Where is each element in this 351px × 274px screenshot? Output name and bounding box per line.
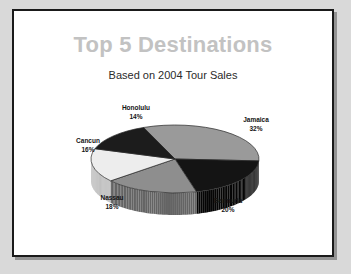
pie-label-cancun-name: Cancun [52, 136, 124, 145]
pie-label-bermuda: Bermuda 20% [192, 196, 264, 215]
pie-chart[interactable]: Honolulu 14% Jamaica 32% Cancun 16% Nass… [14, 91, 332, 251]
pie-label-jamaica-percent: 32% [220, 124, 292, 133]
pie-label-bermuda-percent: 20% [192, 205, 264, 214]
slide-canvas: Top 5 Destinations Based on 2004 Tour Sa… [14, 11, 332, 255]
pie-label-honolulu-percent: 14% [100, 112, 172, 121]
slide-frame[interactable]: Top 5 Destinations Based on 2004 Tour Sa… [12, 9, 334, 257]
pie-label-cancun: Cancun 16% [52, 136, 124, 155]
pie-label-jamaica: Jamaica 32% [220, 115, 292, 134]
pie-label-nassau: Nassau 18% [76, 193, 148, 212]
pie-label-jamaica-name: Jamaica [220, 115, 292, 124]
pie-label-cancun-percent: 16% [52, 145, 124, 154]
pie-label-nassau-percent: 18% [76, 202, 148, 211]
slide-subtitle: Based on 2004 Tour Sales [14, 69, 332, 81]
pie-label-honolulu-name: Honolulu [100, 103, 172, 112]
page-title: Top 5 Destinations [14, 32, 332, 58]
pie-label-nassau-name: Nassau [76, 193, 148, 202]
pie-label-honolulu: Honolulu 14% [100, 103, 172, 122]
pie-label-bermuda-name: Bermuda [192, 196, 264, 205]
